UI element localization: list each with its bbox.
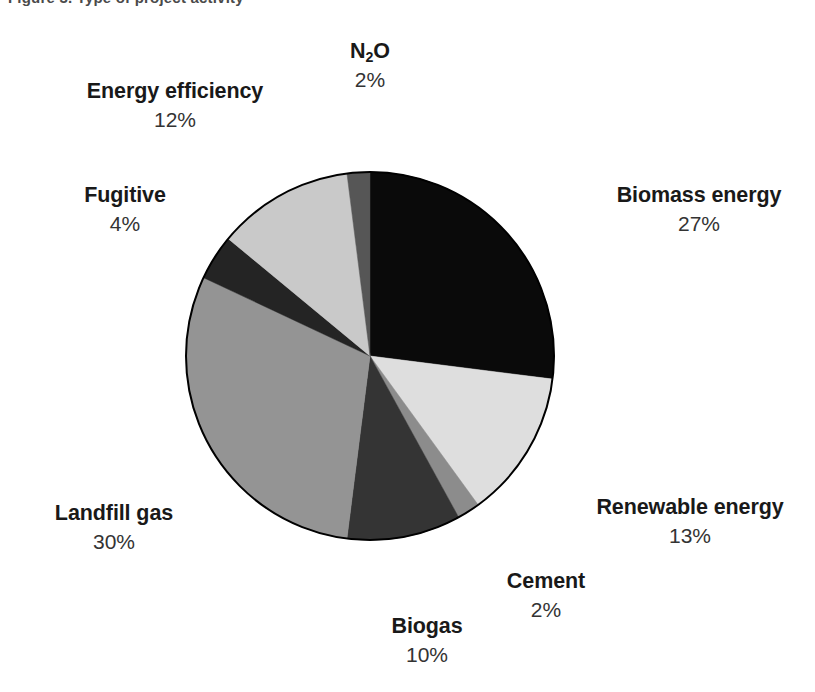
pie-slice-biomass-energy xyxy=(370,172,554,379)
slice-label-landfill-gas: Landfill gas 30% xyxy=(8,500,220,555)
slice-label-biomass-energy-name: Biomass energy xyxy=(588,182,810,208)
slice-label-n2o: N2O 2% xyxy=(300,38,440,93)
slice-label-cement-name: Cement xyxy=(470,568,622,594)
slice-label-fugitive: Fugitive 4% xyxy=(40,182,210,237)
slice-label-cement-value: 2% xyxy=(470,597,622,623)
slice-label-fugitive-value: 4% xyxy=(40,211,210,237)
n2o-subscript: 2 xyxy=(366,49,374,65)
pie-chart-figure: Figure 3. Type of project activity N2O 2… xyxy=(0,0,815,692)
slice-label-renewable-energy: Renewable energy 13% xyxy=(568,494,812,549)
slice-label-renewable-energy-name: Renewable energy xyxy=(568,494,812,520)
pie-slice-group xyxy=(186,172,554,540)
slice-label-n2o-name: N2O xyxy=(300,38,440,64)
slice-label-landfill-gas-value: 30% xyxy=(8,529,220,555)
slice-label-energy-efficiency-name: Energy efficiency xyxy=(44,78,306,104)
slice-label-fugitive-name: Fugitive xyxy=(40,182,210,208)
slice-label-landfill-gas-name: Landfill gas xyxy=(8,500,220,526)
slice-label-energy-efficiency: Energy efficiency 12% xyxy=(44,78,306,133)
slice-label-renewable-energy-value: 13% xyxy=(568,523,812,549)
slice-label-cement: Cement 2% xyxy=(470,568,622,623)
slice-label-biogas-value: 10% xyxy=(352,642,502,668)
slice-label-biomass-energy: Biomass energy 27% xyxy=(588,182,810,237)
slice-label-energy-efficiency-value: 12% xyxy=(44,107,306,133)
slice-label-n2o-value: 2% xyxy=(300,67,440,93)
slice-label-biomass-energy-value: 27% xyxy=(588,211,810,237)
